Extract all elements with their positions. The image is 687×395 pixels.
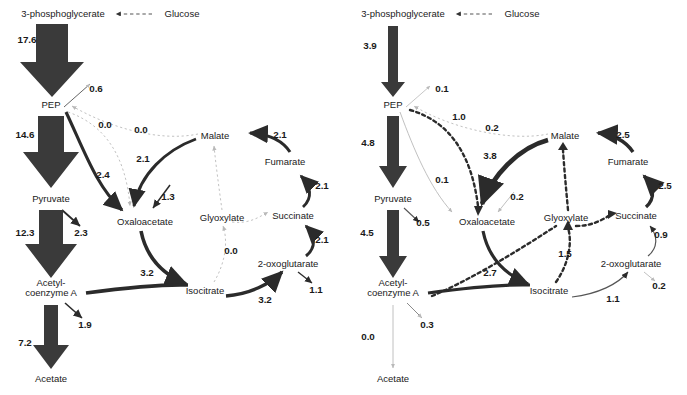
flux-malate-to-pep-left: 0.0 [134, 124, 148, 135]
flux-fumarate-to-malate-left: 2.1 [273, 129, 287, 140]
node-acetate-left: Acetate [35, 374, 67, 385]
node-acetyl-coenzyme-a-right: Acetyl-coenzyme A [367, 278, 419, 298]
node-isocitrate-left: Isocitrate [186, 286, 225, 297]
edge-succinate-to-fumarate-left [301, 176, 310, 207]
flux-3pg-to-pep-left: 17.6 [17, 34, 36, 45]
node-oxaloacetate-left: Oxaloacetate [117, 217, 173, 228]
flux-malate-to-oxaloacetate-left: 2.1 [136, 153, 150, 164]
node-glucose-left: Glucose [165, 9, 200, 20]
flux-accoa-out-right: 0.3 [420, 319, 434, 330]
edge-2og-to-succinate-left [306, 226, 314, 256]
edge-succinate-to-fumarate-right [644, 176, 653, 207]
flux-succinate-to-fumarate-left: 2.1 [315, 180, 329, 191]
node-pep-right: PEP [383, 100, 402, 111]
flux-accoa-to-acetate-right: 0.0 [361, 331, 375, 342]
node-glyoxylate-left: Glyoxylate [200, 213, 244, 224]
node-fumarate-left: Fumarate [265, 157, 306, 168]
edge-pyruvate-to-accoa-left [25, 210, 77, 278]
edge-accoa-to-acetate-left [33, 305, 69, 369]
node-2-oxoglutarate-right: 2-oxoglutarate [601, 259, 662, 270]
flux-pep-to-oaa-thin-right: 0.1 [435, 174, 449, 185]
edge-glyoxylate-to-malate-right [558, 142, 568, 210]
flux-pyruvate-to-accoa-right: 4.5 [360, 227, 374, 238]
flux-pep-to-pyruvate-left: 14.6 [15, 129, 34, 140]
flux-isocitrate-to-2og-right: 1.1 [606, 293, 620, 304]
flux-glyoxylate-shunt-right: 1.5 [558, 248, 572, 259]
node-acetate-right: Acetate [377, 374, 409, 385]
node-oxaloacetate-right: Oxaloacetate [459, 217, 515, 228]
flux-2og-to-succinate-left: 2.1 [315, 234, 329, 245]
flux-oaa-to-isocitrate-right: 2.7 [483, 267, 497, 278]
node-malate-left: Malate [201, 131, 230, 142]
edge-accoa-biomass-right [407, 303, 422, 318]
flux-accoa-out-left: 1.9 [78, 319, 92, 330]
node-3-phosphoglycerate-right: 3-phosphoglycerate [361, 9, 444, 20]
flux-accoa-to-acetate-left: 7.2 [18, 337, 32, 348]
flux-pep-to-pyruvate-right: 4.8 [361, 137, 375, 148]
edge-3pg-to-pep-right [381, 26, 405, 97]
node-3-phosphoglycerate-left: 3-phosphoglycerate [21, 9, 104, 20]
flux-2og-to-succinate-right: 0.9 [654, 229, 668, 240]
node-glyoxylate-right: Glyoxylate [544, 213, 588, 224]
edge-accoa-to-isocitrate-left [86, 285, 188, 293]
node-glucose-right: Glucose [505, 9, 540, 20]
edge-pep-biomass-right [406, 86, 430, 107]
node-pyruvate-left: Pyruvate [32, 194, 70, 205]
node-2-oxoglutarate-left: 2-oxoglutarate [258, 259, 319, 270]
edge-pep-to-pyruvate-left [23, 116, 79, 188]
flux-2og-out-left: 1.1 [309, 284, 323, 295]
flux-fumarate-to-malate-right: 2.5 [616, 129, 630, 140]
edge-accoa-biomass-left [65, 303, 82, 318]
edge-pep-biomass-left [64, 84, 90, 107]
edge-pep-to-pyruvate-right [379, 116, 407, 188]
flux-pep-to-oaa-dotted-left: 0.0 [98, 119, 112, 130]
flux-isocitrate-to-2og-left: 3.2 [258, 294, 272, 305]
node-isocitrate-right: Isocitrate [530, 286, 569, 297]
flux-malate-to-pep-right: 0.2 [485, 122, 499, 133]
flux-diagram-figure: 3-phosphoglycerate Glucose PEP Pyruvate … [0, 0, 687, 395]
edges-layer [0, 0, 687, 395]
flux-2og-out-right: 0.2 [652, 280, 666, 291]
flux-pep-out-left: 0.6 [89, 83, 103, 94]
flux-pep-to-oxaloacetate-right: 1.0 [452, 111, 466, 122]
node-malate-right: Malate [551, 131, 580, 142]
flux-glyoxylate-shunt-left: 0.0 [224, 245, 238, 256]
flux-pyruvate-out-left: 2.3 [74, 227, 88, 238]
node-succinate-right: Succinate [615, 211, 657, 222]
node-fumarate-right: Fumarate [608, 157, 649, 168]
flux-oaa-in-right: 0.2 [510, 191, 524, 202]
edge-pyruvate-biomass-left [62, 210, 80, 226]
flux-3pg-to-pep-right: 3.9 [363, 40, 377, 51]
node-acetyl-coenzyme-a-left: Acetyl-coenzyme A [25, 278, 77, 298]
edge-pyruvate-to-accoa-right [379, 210, 407, 278]
node-pyruvate-right: Pyruvate [374, 194, 412, 205]
edge-isocitrate-to-2og-left [226, 272, 282, 296]
flux-pep-to-oxaloacetate-left: 2.4 [96, 169, 110, 180]
flux-pep-out-right: 0.1 [435, 83, 449, 94]
node-succinate-left: Succinate [272, 211, 314, 222]
flux-oaa-to-isocitrate-left: 3.2 [140, 267, 154, 278]
flux-malate-to-oxaloacetate-right: 3.8 [483, 150, 497, 161]
edge-2og-biomass-left [298, 272, 312, 283]
flux-oaa-in-left: 1.3 [161, 191, 175, 202]
node-pep-left: PEP [41, 100, 60, 111]
edge-glyoxylate-to-malate-left [214, 146, 222, 210]
flux-pyruvate-out-right: 0.5 [416, 217, 430, 228]
flux-pyruvate-to-accoa-left: 12.3 [15, 227, 34, 238]
flux-succinate-to-fumarate-right: 2.5 [658, 180, 672, 191]
